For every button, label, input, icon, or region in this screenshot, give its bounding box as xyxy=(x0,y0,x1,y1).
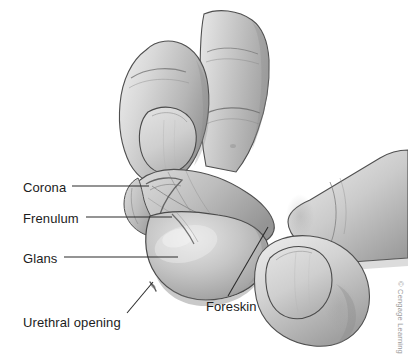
label-foreskin: Foreskin xyxy=(206,299,257,314)
label-frenulum: Frenulum xyxy=(23,211,79,226)
penis-anatomy-figure: Corona Frenulum Glans Urethral opening F… xyxy=(0,0,408,362)
label-urethral-opening: Urethral opening xyxy=(23,315,121,330)
label-glans: Glans xyxy=(23,251,57,266)
copyright-credit: © Cengage Learning xyxy=(396,281,405,361)
label-corona: Corona xyxy=(23,180,66,195)
